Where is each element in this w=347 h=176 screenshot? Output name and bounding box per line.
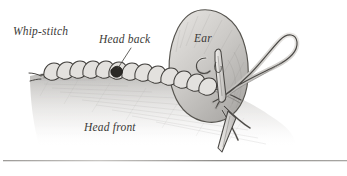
label-head-front: Head front bbox=[84, 121, 136, 133]
label-ear: Ear bbox=[194, 32, 212, 44]
ear-piece bbox=[169, 10, 248, 123]
bottom-divider-rule bbox=[3, 160, 347, 161]
sewing-diagram-figure: Whip-stitch Head back Ear Head front bbox=[0, 0, 347, 176]
label-whip-stitch: Whip-stitch bbox=[13, 25, 68, 37]
label-head-back: Head back bbox=[99, 33, 150, 45]
highlighted-stitch-point bbox=[111, 66, 123, 77]
